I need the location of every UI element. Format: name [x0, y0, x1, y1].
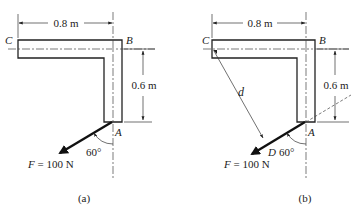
point-label-a: A — [307, 126, 315, 138]
dim-label-horizontal: 0.8 m — [53, 17, 79, 29]
dim-label-vertical: 0.6 m — [323, 79, 349, 91]
point-label-d: D — [267, 146, 276, 158]
force-value: = 100 N — [231, 158, 270, 170]
angle-arc — [287, 133, 306, 144]
angle-label: 60° — [279, 146, 294, 158]
bent-bar — [212, 40, 315, 122]
distance-label-d: d — [238, 85, 245, 99]
angle-arc — [94, 133, 113, 144]
dim-label-horizontal: 0.8 m — [247, 17, 273, 29]
dim-label-vertical: 0.6 m — [131, 79, 157, 91]
point-label-c: C — [5, 34, 13, 46]
caption-a: (a) — [78, 192, 91, 205]
caption-b: (b) — [299, 192, 312, 205]
bent-bar — [18, 40, 122, 122]
line-of-action-extension — [306, 95, 351, 122]
point-label-b: B — [126, 34, 133, 46]
force-label: F = 100 N — [27, 158, 74, 170]
force-label: F = 100 N — [223, 158, 270, 170]
panel-b: 0.8 m 0.6 m d C B A D 60° F = 100 N (b) — [202, 12, 351, 205]
force-value: = 100 N — [35, 158, 74, 170]
angle-label: 60° — [86, 146, 101, 158]
panel-a: 0.8 m 0.6 m C B A 60° F = 100 N (a) — [5, 12, 157, 205]
figure: 0.8 m 0.6 m C B A 60° F = 100 N (a) 0.8 … — [0, 0, 351, 214]
point-label-c: C — [202, 34, 210, 46]
point-label-b: B — [319, 34, 326, 46]
point-label-a: A — [114, 126, 122, 138]
